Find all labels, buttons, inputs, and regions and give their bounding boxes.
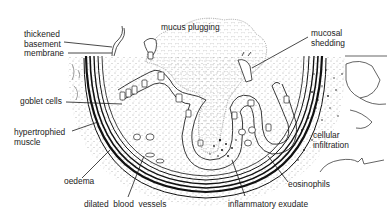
label-mucosal-shedding: mucosal shedding [311, 29, 345, 48]
label-oedema: oedema [64, 177, 94, 187]
label-eosinophils: eosinophils [288, 180, 330, 190]
label-goblet-cells: goblet cells [20, 97, 62, 107]
label-thickened-basement-membrane: thickened basement membrane [24, 30, 64, 59]
basement-membrane-strand [112, 26, 125, 56]
label-dilated-blood-vessels: dilated blood vessels [84, 200, 166, 210]
label-cellular-infiltration: cellular infiltration [313, 131, 349, 150]
label-mucus-plugging: mucus plugging [161, 23, 220, 33]
label-hypertrophied-muscle: hypertrophied muscle [14, 128, 65, 147]
label-inflammatory-exudate: inflammatory exudate [228, 200, 308, 210]
asthma-airway-diagram: thickened basement membrane mucus pluggi… [0, 0, 387, 218]
